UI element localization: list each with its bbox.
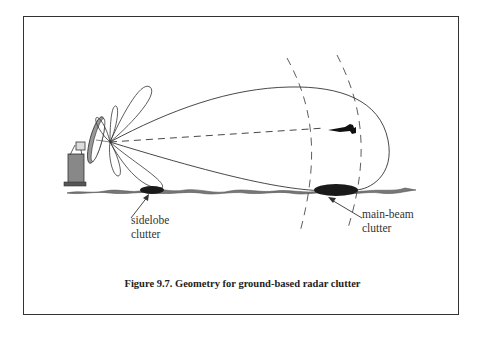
- main-beam-label-line2: clutter: [362, 221, 414, 235]
- sidelobe-clutter-label: sidelobe clutter: [131, 213, 169, 241]
- range-gate-arc-far: [337, 55, 361, 228]
- sidelobe-label-line2: clutter: [131, 227, 169, 241]
- target-aircraft-icon: [328, 124, 356, 134]
- range-gate-arc-near: [287, 58, 312, 232]
- main-beam-arrow: [328, 197, 362, 218]
- sidelobe-clutter-patch: [140, 186, 164, 194]
- figure-caption: Figure 9.7. Geometry for ground-based ra…: [0, 278, 485, 289]
- main-beam-label-line1: main-beam: [362, 207, 414, 221]
- main-beam-clutter-label: main-beam clutter: [362, 207, 414, 235]
- radar-antenna-icon: [64, 115, 110, 186]
- main-beam-clutter-patch: [314, 184, 358, 196]
- sidelobe-label-line1: sidelobe: [131, 213, 169, 227]
- sidelobes: [96, 86, 163, 188]
- boresight-line: [110, 128, 325, 142]
